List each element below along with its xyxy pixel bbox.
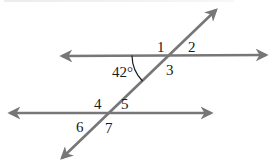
angle-label-1: 1: [157, 39, 165, 55]
upper-parallel-line: [62, 55, 266, 56]
transversal-line: [62, 10, 216, 158]
given-angle-label: 42°: [112, 64, 133, 80]
angle-arc-42: [132, 56, 143, 82]
angle-label-2: 2: [188, 39, 196, 55]
angle-label-4: 4: [94, 96, 102, 112]
angle-label-5: 5: [121, 96, 129, 112]
angle-label-6: 6: [76, 119, 84, 135]
parallel-lines-diagram: 42° 1 2 3 4 5 6 7: [0, 0, 275, 167]
angle-label-3: 3: [166, 62, 174, 78]
angle-label-7: 7: [105, 120, 113, 136]
